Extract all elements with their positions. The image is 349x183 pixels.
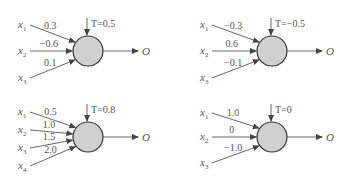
weight-label-x2: 1.0	[43, 119, 56, 130]
neuron-node	[257, 122, 287, 152]
threshold-label: T=−0.5	[275, 18, 305, 29]
threshold-label: T=0	[275, 104, 292, 115]
threshold-label: T=0.5	[91, 18, 115, 29]
input-label-x3: x3	[17, 71, 27, 86]
input-label-x3: x3	[17, 141, 27, 156]
perceptron-2: x1−0.3x20.6x3−0.1T=−0.5O	[199, 18, 334, 86]
weight-label-x4: 2.0	[44, 144, 57, 155]
input-label-x3: x3	[199, 156, 209, 171]
neuron-node	[73, 122, 103, 152]
neuron-node	[73, 36, 103, 66]
input-label-x2: x2	[17, 123, 27, 138]
weight-label-x1: 0.5	[44, 106, 57, 117]
perceptron-diagrams: x10.3x2−0.6x30.1T=0.5Ox1−0.3x20.6x3−0.1T…	[0, 0, 349, 183]
perceptron-1: x10.3x2−0.6x30.1T=0.5O	[17, 18, 150, 86]
input-label-x1: x1	[199, 18, 209, 33]
perceptron-4: x11.0x20x3−1.0T=0O	[199, 104, 334, 171]
weight-label-x1: 0.3	[44, 20, 57, 31]
perceptron-3: x10.5x21.0x31.5x42.0T=0.8O	[17, 104, 150, 174]
input-label-x1: x1	[199, 106, 209, 121]
weight-label-x1: 1.0	[227, 107, 240, 118]
input-label-x1: x1	[17, 18, 27, 33]
weight-label-x2: 0.6	[226, 38, 239, 49]
output-label: O	[142, 131, 150, 143]
weight-label-x3: 1.5	[43, 131, 56, 142]
input-label-x2: x2	[17, 44, 27, 59]
input-label-x4: x4	[17, 159, 27, 174]
weight-label-x3: 0.1	[44, 57, 57, 68]
neuron-node	[257, 36, 287, 66]
threshold-label: T=0.8	[91, 104, 115, 115]
weight-label-x3: −1.0	[224, 142, 242, 153]
weight-label-x2: −0.6	[40, 38, 58, 49]
weight-label-x2: 0	[229, 124, 234, 135]
weight-label-x1: −0.3	[224, 20, 242, 31]
input-label-x2: x2	[199, 44, 209, 59]
weight-label-x3: −0.1	[224, 57, 242, 68]
output-label: O	[142, 45, 150, 57]
input-label-x2: x2	[199, 130, 209, 145]
input-label-x3: x3	[199, 71, 209, 86]
output-label: O	[326, 45, 334, 57]
input-label-x1: x1	[17, 105, 27, 120]
output-label: O	[326, 131, 334, 143]
